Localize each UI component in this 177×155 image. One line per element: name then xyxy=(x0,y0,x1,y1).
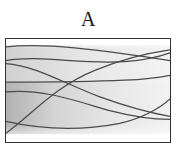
spaghetti-plot-svg xyxy=(6,39,170,142)
band-upper-grey xyxy=(6,45,170,82)
page-title: A xyxy=(0,8,177,30)
plot-frame xyxy=(5,38,171,143)
figure-panel-a: A xyxy=(0,0,177,155)
